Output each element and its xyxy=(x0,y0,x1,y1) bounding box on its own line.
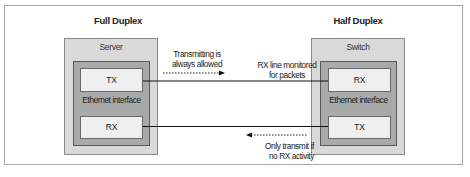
tx-note-line2: always allowed xyxy=(162,59,232,69)
full-duplex-arrow-icon xyxy=(163,71,225,76)
half-tx-note-line1: Only transmit if xyxy=(252,141,314,151)
rx-note-line2: for packets xyxy=(247,70,327,80)
connection-lines xyxy=(0,0,470,177)
tx-always-allowed-note: Transmitting is always allowed xyxy=(162,49,232,69)
half-tx-note-line2: no RX activity xyxy=(252,151,314,161)
rx-note-line1: RX line monitored xyxy=(247,60,327,70)
half-duplex-tx-note: Only transmit if no RX activity xyxy=(252,141,314,161)
rx-monitored-note: RX line monitored for packets xyxy=(247,60,327,80)
half-duplex-arrow-icon xyxy=(246,133,307,138)
tx-note-line1: Transmitting is xyxy=(162,49,232,59)
